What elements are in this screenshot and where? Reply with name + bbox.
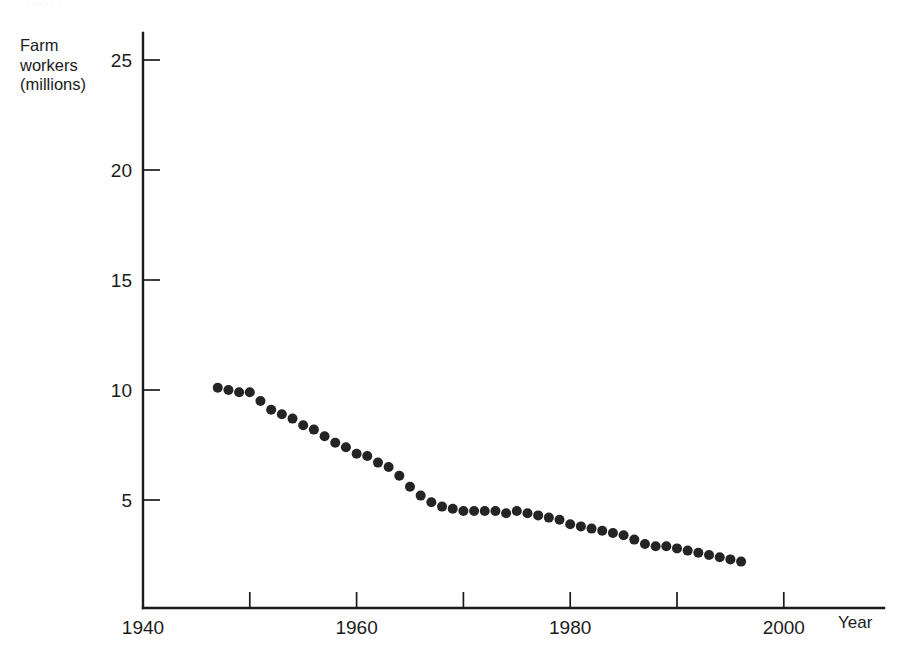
chart-page: · · · · · · Farm workers (millions) Year… [0, 0, 924, 663]
y-tick-label: 25 [111, 50, 132, 71]
x-tick-label: 2000 [763, 617, 805, 638]
data-point [384, 462, 394, 472]
data-point [576, 521, 586, 531]
y-axis-tick-group: 252015105 [111, 50, 160, 511]
data-point [522, 508, 532, 518]
data-point [565, 519, 575, 529]
y-tick-label: 20 [111, 160, 132, 181]
data-point [448, 504, 458, 514]
data-point [555, 515, 565, 525]
data-point [298, 420, 308, 430]
data-point [725, 554, 735, 564]
data-point [693, 548, 703, 558]
data-point-group [213, 383, 746, 567]
data-point [640, 539, 650, 549]
data-point [490, 506, 500, 516]
data-point [309, 425, 319, 435]
data-point [394, 471, 404, 481]
data-point [651, 541, 661, 551]
data-point [426, 497, 436, 507]
data-point [266, 405, 276, 415]
data-point [619, 530, 629, 540]
data-point [277, 409, 287, 419]
x-tick-label: 1940 [122, 617, 164, 638]
data-point [255, 396, 265, 406]
data-point [341, 442, 351, 452]
data-point [458, 506, 468, 516]
x-axis-tick-group: 1940196019802000 [122, 592, 805, 638]
data-point [672, 543, 682, 553]
data-point [416, 491, 426, 501]
data-point [715, 552, 725, 562]
data-point [736, 557, 746, 567]
data-point [480, 506, 490, 516]
data-point [213, 383, 223, 393]
data-point [512, 506, 522, 516]
x-tick-label: 1980 [549, 617, 591, 638]
y-tick-label: 10 [111, 380, 132, 401]
data-point [704, 550, 714, 560]
data-point [405, 482, 415, 492]
data-point [533, 510, 543, 520]
scatter-plot: 252015105 1940196019802000 [0, 0, 924, 663]
data-point [362, 451, 372, 461]
data-point [608, 528, 618, 538]
data-point [330, 438, 340, 448]
data-point [587, 524, 597, 534]
data-point [544, 513, 554, 523]
data-point [223, 385, 233, 395]
y-tick-label: 5 [121, 490, 132, 511]
data-point [320, 431, 330, 441]
data-point [373, 458, 383, 468]
data-point [437, 502, 447, 512]
data-point [288, 414, 298, 424]
data-point [629, 535, 639, 545]
data-point [245, 387, 255, 397]
data-point [501, 508, 511, 518]
data-point [234, 387, 244, 397]
data-point [597, 526, 607, 536]
x-tick-label: 1960 [335, 617, 377, 638]
data-point [661, 541, 671, 551]
data-point [352, 449, 362, 459]
data-point [469, 506, 479, 516]
data-point [683, 546, 693, 556]
y-tick-label: 15 [111, 270, 132, 291]
